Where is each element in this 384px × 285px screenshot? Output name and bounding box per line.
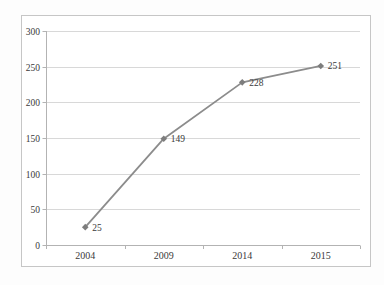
y-axis-label: 100 xyxy=(26,170,41,180)
y-axis-label: 0 xyxy=(35,241,40,251)
y-axis-label: 50 xyxy=(31,205,41,215)
x-axis-label: 2004 xyxy=(75,250,95,261)
data-label: 251 xyxy=(328,61,343,71)
y-axis-label: 200 xyxy=(26,98,41,108)
y-axis-label: 300 xyxy=(26,27,41,37)
y-axis-label: 150 xyxy=(26,134,41,144)
x-axis-label: 2014 xyxy=(232,250,252,261)
data-label: 228 xyxy=(249,78,264,88)
x-axis-label: 2015 xyxy=(311,250,331,261)
y-axis-label: 250 xyxy=(26,63,41,73)
data-label: 25 xyxy=(92,223,102,233)
chart-container: 0501001502002503002004200920142015251492… xyxy=(0,0,384,285)
figure-border xyxy=(22,16,371,267)
data-label: 149 xyxy=(171,134,186,144)
x-axis-label: 2009 xyxy=(154,250,174,261)
line-chart: 0501001502002503002004200920142015251492… xyxy=(0,0,384,285)
